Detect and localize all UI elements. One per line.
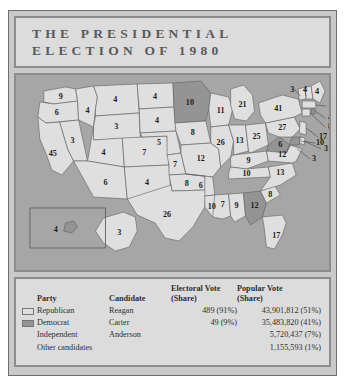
table-row: Other candidates 1,155,593 (1%) [22,342,321,354]
ev-label-HI: 4 [54,225,58,234]
ev-label-NC: 13 [276,168,284,177]
ev-label-WY: 3 [114,122,118,131]
row-party: Other candidates [37,342,109,354]
results-table: Party Candidate Electoral Vote (Share) P… [22,284,321,354]
header-candidate: Candidate [109,284,171,305]
ev-label-KS: 7 [173,160,177,169]
ev-label-NM: 4 [145,178,149,187]
ev-label-IL: 26 [217,138,225,147]
ev-label-OR: 6 [55,108,59,117]
header-popular-vote: Popular Vote (Share) [237,284,321,305]
row-electoral: 489 (91%) [171,305,237,317]
title-line-2: ELECTION OF 1980 [32,42,329,59]
state-CT [302,109,310,116]
election-map-figure: THE PRESIDENTIAL ELECTION OF 1980 [8,10,337,376]
state-NJ [299,121,306,135]
ev-label-SC: 8 [268,190,272,199]
row-popular: 35,483,820 (41%) [237,317,321,329]
header-swatch [22,284,37,305]
ev-label-FL: 17 [272,231,280,240]
electoral-map-panel: 9 6 45 3 4 4 3 4 7 6 4 4 4 5 7 8 26 10 8… [14,73,331,272]
ev-label-ME: 4 [315,87,319,96]
ev-label-DC: 3 [312,154,316,163]
ev-label-CT: 8 [328,122,329,131]
row-party: Independent [37,329,109,341]
ev-label-TX: 26 [163,210,171,219]
ev-label-AL: 9 [235,201,239,210]
legend-swatch-cell [22,317,37,329]
us-electoral-map-svg: 9 6 45 3 4 4 3 4 7 6 4 4 4 5 7 8 26 10 8… [16,75,329,270]
ev-label-MA: 14 [328,101,329,110]
ev-label-AZ: 6 [103,178,107,187]
header-electoral-vote: Electoral Vote (Share) [171,284,237,305]
ev-label-MD: 10 [316,138,324,147]
state-AZ [74,161,128,199]
ev-label-NV: 3 [71,136,75,145]
legend-swatch-cell [22,329,37,341]
ev-label-ID: 4 [86,106,90,115]
ev-label-NY: 41 [274,104,282,113]
ev-label-SD: 4 [155,116,159,125]
row-electoral [171,329,237,341]
row-party: Democrat [37,317,109,329]
ev-label-AR: 6 [199,181,203,190]
ev-label-MI: 21 [238,100,246,109]
ev-label-CO: 7 [142,148,146,157]
row-popular: 5,720,437 (7%) [237,329,321,341]
ev-label-CA: 45 [49,149,57,158]
ev-label-DE: 3 [324,144,328,153]
ev-label-RI: 4 [328,113,329,122]
row-popular: 1,155,593 (1%) [237,342,321,354]
ev-label-OK: 8 [185,179,189,188]
republican-swatch-icon [22,308,34,315]
ev-label-WI: 11 [217,106,225,115]
row-electoral: 49 (9%) [171,317,237,329]
ev-label-IA: 8 [191,128,195,137]
row-electoral [171,342,237,354]
ev-label-KY: 9 [246,156,250,165]
ev-label-IN: 13 [236,136,244,145]
legend-swatch-cell [22,305,37,317]
results-legend-panel: Party Candidate Electoral Vote (Share) P… [14,277,331,367]
header-party: Party [37,284,109,305]
row-candidate [109,342,171,354]
ev-label-TN: 10 [242,169,250,178]
ev-label-VT: 3 [290,85,294,94]
table-row: Independent Anderson 5,720,437 (7%) [22,329,321,341]
state-MA [302,101,316,108]
header-electoral-line1: Electoral Vote [171,284,237,294]
table-row: Republican Reagan 489 (91%) 43,901,812 (… [22,305,321,317]
democrat-swatch-icon [22,320,34,327]
table-row: Democrat Carter 49 (9%) 35,483,820 (41%) [22,317,321,329]
table-header-row: Party Candidate Electoral Vote (Share) P… [22,284,321,305]
header-electoral-line2: (Share) [171,294,237,304]
legend-swatch-cell [22,342,37,354]
ev-label-MS: 7 [221,200,225,209]
ev-label-LA: 10 [208,202,216,211]
header-popular-line1: Popular Vote [237,284,321,294]
ev-label-PA: 27 [278,123,286,132]
ev-label-NE: 5 [157,138,161,147]
row-candidate: Reagan [109,305,171,317]
ev-label-WA: 9 [59,92,63,101]
row-candidate: Carter [109,317,171,329]
row-popular: 43,901,812 (51%) [237,305,321,317]
row-candidate: Anderson [109,329,171,341]
ev-label-ND: 4 [153,92,157,101]
ev-label-AK: 3 [117,228,121,237]
header-popular-line2: (Share) [237,294,321,304]
ev-label-WV: 6 [278,140,282,149]
state-HI [64,221,78,233]
state-RI [311,109,315,114]
row-party: Republican [37,305,109,317]
ev-label-GA: 12 [250,201,258,210]
ev-label-MO: 12 [197,154,205,163]
ev-label-MN: 10 [186,98,194,107]
ev-label-VA: 12 [278,150,286,159]
ev-label-UT: 4 [101,148,105,157]
ev-label-MT: 4 [113,95,117,104]
ev-label-OH: 25 [252,132,260,141]
figure-title: THE PRESIDENTIAL ELECTION OF 1980 [14,16,331,68]
title-line-1: THE PRESIDENTIAL [32,25,329,42]
